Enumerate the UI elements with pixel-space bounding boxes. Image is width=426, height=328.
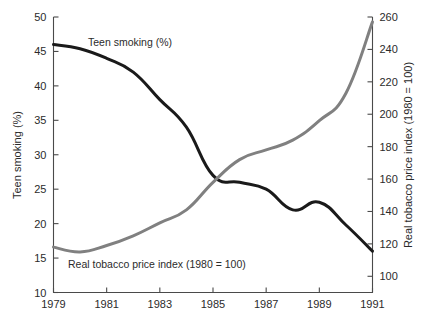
- x-tick-label: 1983: [148, 298, 172, 310]
- annotation-tobacco-price-index: Real tobacco price index (1980 = 100): [68, 258, 246, 270]
- x-tick-label: 1979: [41, 298, 65, 310]
- right-tick-label: 260: [380, 11, 398, 23]
- annotation-teen-smoking: Teen smoking (%): [88, 36, 172, 48]
- left-axis-ticks: 101520253035404550: [34, 11, 58, 299]
- left-tick-label: 20: [34, 218, 46, 230]
- right-tick-label: 100: [380, 270, 398, 282]
- left-tick-label: 50: [34, 11, 46, 23]
- left-axis-title: Teen smoking (%): [11, 111, 23, 199]
- left-tick-label: 40: [34, 80, 46, 92]
- right-tick-label: 140: [380, 205, 398, 217]
- series-group: [54, 22, 373, 252]
- right-tick-label: 120: [380, 238, 398, 250]
- chart-container: 101520253035404550 100120140160180200220…: [0, 0, 426, 328]
- x-tick-label: 1987: [254, 298, 278, 310]
- x-tick-label: 1991: [360, 298, 384, 310]
- right-tick-label: 160: [380, 173, 398, 185]
- right-tick-label: 240: [380, 43, 398, 55]
- x-axis-ticks: 1979198119831985198719891991: [41, 288, 384, 310]
- right-axis-title: Real tobacco price index (1980 = 100): [402, 62, 414, 248]
- x-tick-label: 1989: [307, 298, 331, 310]
- right-tick-label: 180: [380, 141, 398, 153]
- left-tick-label: 35: [34, 114, 46, 126]
- left-tick-label: 15: [34, 252, 46, 264]
- x-tick-label: 1981: [94, 298, 118, 310]
- left-tick-label: 25: [34, 183, 46, 195]
- right-tick-label: 220: [380, 76, 398, 88]
- right-tick-label: 200: [380, 108, 398, 120]
- series-line-teen-smoking: [54, 45, 373, 252]
- left-tick-label: 30: [34, 149, 46, 161]
- left-tick-label: 45: [34, 45, 46, 57]
- x-tick-label: 1985: [201, 298, 225, 310]
- axes-frame: [54, 17, 373, 293]
- dual-axis-line-chart: 101520253035404550 100120140160180200220…: [0, 0, 426, 328]
